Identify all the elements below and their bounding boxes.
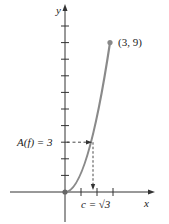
y-axis-arrow-icon [63,4,68,11]
x-axis-arrow-icon [148,190,155,195]
graph: y x (3, 9) A(f) = 3 c = √3 [0,0,169,224]
point-label: (3, 9) [118,36,142,49]
endpoint [107,40,112,45]
area-label: A(f) = 3 [16,136,53,149]
origin-point [62,189,67,194]
function-curve [65,43,110,192]
y-axis-label: y [55,4,61,16]
arrow-down-icon [91,184,95,190]
c-label: c = √3 [81,198,111,210]
x-axis-label: x [143,197,149,209]
